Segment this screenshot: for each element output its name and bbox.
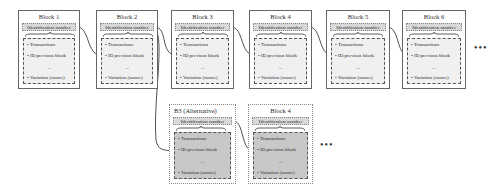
field-nonce: Variation (nonce) [338,75,373,80]
block-b3-alternative: B3 (Alternative) Identification number •… [169,104,236,184]
field-ellipsis: ... [24,65,74,70]
block-3: Block 3 Identification number • Transact… [171,10,234,89]
field-id-previous-block: ID previous block [30,53,66,58]
block-contents: • Transactions • ID previous block ... •… [254,38,307,84]
block-contents: • Transactions • ID previous block ... •… [253,132,308,179]
block-contents: • Transactions • ID previous block ... •… [407,38,461,84]
field-nonce: Variation (nonce) [260,170,295,175]
block-contents: • Transactions • ID previous block ... •… [331,38,385,84]
block-contents: • Transactions • ID previous block ... •… [23,38,75,84]
identification-number: Identification number [252,117,309,125]
block-title: Block 2 [97,13,157,20]
field-ellipsis: ... [102,65,152,70]
block-title: Block 4 [250,13,311,20]
field-transactions: Transactions [108,42,133,47]
identification-number: Identification number [173,117,232,125]
identification-number: Identification number [100,23,154,31]
field-id-previous-block: ID previous block [260,147,296,152]
block-contents: • Transactions • ID previous block ... •… [101,38,153,84]
field-ellipsis: ... [177,65,228,70]
block-contents: • Transactions • ID previous block ... •… [176,38,229,84]
brace-icon [256,32,306,37]
block-4: Block 4 Identification number • Transact… [249,10,312,89]
field-ellipsis: ... [408,65,460,70]
field-transactions: Transactions [338,42,363,47]
field-ellipsis: ... [175,159,230,164]
field-id-previous-block: ID previous block [183,53,219,58]
field-ellipsis: ... [255,65,306,70]
block-title: B3 (Alternative) [174,107,235,114]
brace-icon [25,32,75,37]
identification-number: Identification number [330,23,386,31]
block-2: Block 2 Identification number • Transact… [96,10,158,89]
field-transactions: Transactions [260,136,285,141]
field-id-previous-block: ID previous block [261,53,297,58]
block-5: Block 5 Identification number • Transact… [326,10,390,89]
block-title: Block 3 [172,13,233,20]
field-id-previous-block: ID previous block [108,53,144,58]
brace-icon [176,126,226,131]
block-6: Block 6 Identification number • Transact… [402,10,466,89]
field-nonce: Variation (nonce) [181,170,216,175]
field-transactions: Transactions [30,42,55,47]
block-1: Block 1 Identification number • Transact… [18,10,80,89]
field-transactions: Transactions [181,136,206,141]
block-title: Block 6 [403,13,465,20]
field-nonce: Variation (nonce) [414,75,449,80]
field-transactions: Transactions [414,42,439,47]
field-transactions: Transactions [183,42,208,47]
field-id-previous-block: ID previous block [414,53,450,58]
block-title: Block 4 [249,107,312,114]
brace-icon [333,32,383,37]
identification-number: Identification number [253,23,308,31]
block-4-alternative: Block 4 Identification number • Transact… [248,104,313,184]
continuation-ellipsis-alt: ••• [320,139,334,150]
field-id-previous-block: ID previous block [181,147,217,152]
field-nonce: Variation (nonce) [183,75,218,80]
identification-number: Identification number [22,23,76,31]
brace-icon [255,126,305,131]
identification-number: Identification number [406,23,462,31]
block-title: Block 5 [327,13,389,20]
field-nonce: Variation (nonce) [30,75,65,80]
field-ellipsis: ... [254,159,307,164]
block-contents: • Transactions • ID previous block ... •… [174,132,231,179]
field-nonce: Variation (nonce) [108,75,143,80]
field-ellipsis: ... [332,65,384,70]
continuation-ellipsis-main: ••• [474,42,488,53]
identification-number: Identification number [175,23,230,31]
field-id-previous-block: ID previous block [338,53,374,58]
field-nonce: Variation (nonce) [261,75,296,80]
brace-icon [409,32,459,37]
brace-icon [103,32,153,37]
brace-icon [178,32,228,37]
field-transactions: Transactions [261,42,286,47]
block-title: Block 1 [19,13,79,20]
